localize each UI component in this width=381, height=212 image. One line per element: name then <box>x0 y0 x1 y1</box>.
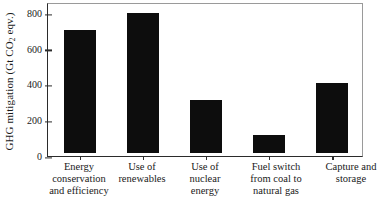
y-tick-label-800: 800 <box>27 9 42 19</box>
plot-area <box>47 3 363 157</box>
x-label-line: nuclear <box>174 173 236 185</box>
bars-layer <box>48 4 362 156</box>
y-tick-label-400: 400 <box>27 80 42 90</box>
x-tick-mark-3 <box>206 156 207 160</box>
y-axis-title-text: GHG mitigation (Gt CO2 eqv.) <box>4 12 15 150</box>
x-label-line: natural gas <box>233 185 319 197</box>
x-label-fuel-switch-from-coal-to-natural-gas: Fuel switch from coal to natural gas <box>233 161 319 198</box>
x-label-line: Capture and <box>311 161 381 173</box>
x-tick-mark-1 <box>80 156 81 160</box>
x-label-line: Use of <box>174 161 236 173</box>
bar-use-of-nuclear-energy[interactable] <box>190 100 222 152</box>
bar-fuel-switch-from-coal-to-natural-gas[interactable] <box>253 135 285 152</box>
x-tick-mark-2 <box>143 156 144 160</box>
x-label-capture-and-storage: Capture and storage <box>311 161 381 185</box>
y-axis-tick-labels: 0 200 400 600 800 <box>18 0 44 162</box>
y-axis-title: GHG mitigation (Gt CO2 eqv.) <box>0 0 18 162</box>
y-tick-label-600: 600 <box>27 45 42 55</box>
x-label-line: from coal to <box>233 173 319 185</box>
y-tick-label-200: 200 <box>27 116 42 126</box>
bar-capture-and-storage[interactable] <box>316 83 348 153</box>
x-label-use-of-renewables: Use of renewables <box>101 161 183 185</box>
x-axis-category-labels: Energy conservation and efficiency Use o… <box>47 161 372 212</box>
bar-energy-conservation-and-efficiency[interactable] <box>64 30 96 152</box>
x-label-line: and efficiency <box>33 185 125 197</box>
y-axis-title-prefix: GHG mitigation (Gt CO <box>3 41 15 150</box>
x-label-line: renewables <box>101 173 183 185</box>
x-label-line: Use of <box>101 161 183 173</box>
x-label-line: Fuel switch <box>233 161 319 173</box>
x-label-line: storage <box>311 173 381 185</box>
x-label-use-of-nuclear-energy: Use of nuclear energy <box>174 161 236 198</box>
y-tick-mark-0 <box>45 157 52 158</box>
y-axis-title-subscript: 2 <box>8 37 17 41</box>
x-tick-mark-4 <box>269 156 270 160</box>
x-tick-mark-5 <box>332 156 333 160</box>
y-axis-title-suffix: eqv.) <box>3 12 15 37</box>
x-label-line: energy <box>174 185 236 197</box>
bar-use-of-renewables[interactable] <box>127 13 159 153</box>
